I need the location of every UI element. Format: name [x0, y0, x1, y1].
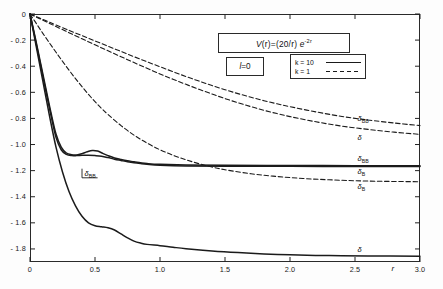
x-tick-label: 2.5 [342, 265, 368, 274]
y-tick-label: - 1.8 [0, 244, 26, 253]
delta-subscript: B [362, 171, 365, 177]
y-tick-label: - 1.2 [0, 166, 26, 175]
x-tick-label: 0 [17, 265, 43, 274]
legend-entry: k = 10 [295, 58, 361, 67]
x-tick-label: 0.5 [82, 265, 108, 274]
partial-wave-box: l=0 [226, 57, 264, 76]
y-tick-label: - 0.8 [0, 114, 26, 123]
x-tick-label: 1.5 [212, 265, 238, 274]
legend-box: k = 10k = 1 [290, 54, 366, 79]
legend-line-swatch-dashed [326, 71, 361, 72]
delta-symbol: δ [358, 133, 362, 142]
label-b-k10: δB [358, 167, 366, 177]
chart-figure: 0- 0.2- 0.4- 0.6- 0.8- 1.0- 1.2- 1.4- 1.… [0, 0, 443, 289]
label-bb-inner: δBB [85, 169, 96, 179]
formula-prefactor: (20/r) [276, 38, 297, 48]
x-axis-title: r [391, 264, 394, 273]
x-tick-label: 1.0 [147, 265, 173, 274]
label-bb-k10: δBB [358, 154, 369, 164]
potential-formula-box: V(r)=(20/r) e-2r [218, 33, 350, 53]
label-bb-k1: δBB [358, 114, 369, 124]
partial-wave-text: l=0 [239, 62, 250, 71]
x-tick-label: 2.0 [277, 265, 303, 274]
label-b-k1: δB [358, 182, 366, 192]
y-tick-label: - 0.2 [0, 36, 26, 45]
y-tick-label: - 1.6 [0, 218, 26, 227]
formula-exponent: -2r [305, 38, 312, 44]
legend-entry: k = 1 [295, 67, 361, 76]
y-tick-label: 0 [0, 10, 26, 19]
y-tick-label: - 0.4 [0, 62, 26, 71]
label-delta-k10: δ [358, 245, 362, 254]
delta-subscript: BB [362, 158, 369, 164]
label-delta-k1: δ [358, 133, 362, 142]
delta-subscript: BB [89, 173, 96, 179]
legend-entry-label: k = 10 [295, 59, 322, 66]
delta-symbol: δ [358, 245, 362, 254]
y-tick-label: - 0.6 [0, 88, 26, 97]
x-tick-label: 3.0 [407, 265, 433, 274]
potential-formula-text: V(r)=(20/r) e-2r [256, 38, 312, 49]
y-tick-label: - 1.0 [0, 140, 26, 149]
delta-subscript: BB [362, 119, 369, 125]
legend-entry-label: k = 1 [295, 68, 322, 75]
l-value: =0 [241, 62, 250, 71]
formula-r-arg: (r) [262, 38, 271, 48]
delta-subscript: B [362, 186, 365, 192]
y-tick-label: - 1.4 [0, 192, 26, 201]
legend-line-swatch-solid [326, 62, 361, 63]
